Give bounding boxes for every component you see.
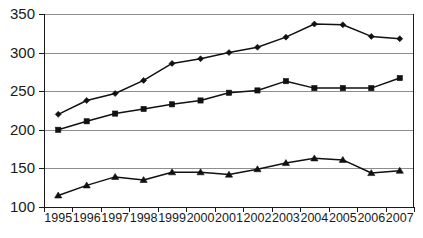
data-point-series-2-2002 xyxy=(255,88,260,93)
data-point-series-2-1997 xyxy=(113,111,118,116)
data-point-series-2-2005 xyxy=(340,86,345,91)
data-point-series-1-2006 xyxy=(368,33,374,39)
data-point-series-1-1995 xyxy=(55,111,61,117)
data-point-series-1-2004 xyxy=(311,21,317,27)
y-tick-label-250: 250 xyxy=(10,82,35,99)
x-tick-label-1995: 1995 xyxy=(44,211,72,225)
series-marker-group xyxy=(55,21,404,198)
x-tick-label-2003: 2003 xyxy=(272,211,300,225)
data-point-series-2-1995 xyxy=(56,127,61,132)
x-tick-label-1996: 1996 xyxy=(73,211,101,225)
x-axis-labels: 1995199619971998199920002001200220032004… xyxy=(44,211,413,225)
chart-canvas: 100150200250300350 199519961997199819992… xyxy=(0,0,423,238)
data-point-series-2-2007 xyxy=(397,75,402,80)
y-tick-label-100: 100 xyxy=(10,198,35,215)
x-tick-label-1999: 1999 xyxy=(158,211,186,225)
x-tick-label-2004: 2004 xyxy=(300,211,328,225)
data-point-series-1-2002 xyxy=(254,44,260,50)
data-point-series-1-2001 xyxy=(226,50,232,56)
data-point-series-2-2004 xyxy=(312,86,317,91)
data-point-series-1-2003 xyxy=(283,34,289,40)
data-point-series-2-2001 xyxy=(226,90,231,95)
data-point-series-2-2006 xyxy=(369,86,374,91)
data-point-series-1-2007 xyxy=(397,36,403,42)
x-tick-label-2006: 2006 xyxy=(357,211,385,225)
series-line-series-1 xyxy=(58,24,400,114)
data-point-series-1-2000 xyxy=(198,56,204,62)
data-point-series-1-1996 xyxy=(84,97,90,103)
data-point-series-2-1996 xyxy=(84,119,89,124)
data-point-series-2-1998 xyxy=(141,106,146,111)
x-tick-label-2002: 2002 xyxy=(244,211,272,225)
axis-group xyxy=(44,14,414,208)
y-tick-label-200: 200 xyxy=(10,121,35,138)
series-line-series-2 xyxy=(58,78,400,130)
y-tickmark-group xyxy=(39,15,44,208)
x-tick-label-2000: 2000 xyxy=(187,211,215,225)
x-tick-label-1998: 1998 xyxy=(130,211,158,225)
y-tick-label-300: 300 xyxy=(10,44,35,61)
data-point-series-2-2003 xyxy=(283,79,288,84)
y-tick-label-150: 150 xyxy=(10,159,35,176)
line-chart: 100150200250300350 199519961997199819992… xyxy=(0,0,423,238)
data-point-series-2-2000 xyxy=(198,98,203,103)
data-point-series-2-1999 xyxy=(169,102,174,107)
y-tick-label-350: 350 xyxy=(10,5,35,22)
x-tick-label-2007: 2007 xyxy=(386,211,414,225)
data-point-series-1-2005 xyxy=(340,22,346,28)
y-axis-labels: 100150200250300350 xyxy=(10,5,35,215)
x-tick-label-2005: 2005 xyxy=(329,211,357,225)
x-tick-label-2001: 2001 xyxy=(215,211,243,225)
x-tick-label-1997: 1997 xyxy=(101,211,129,225)
